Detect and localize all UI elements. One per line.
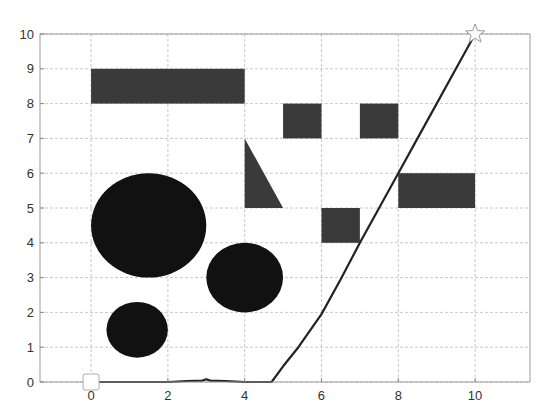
chart-background <box>0 0 552 419</box>
y-tick-label: 7 <box>27 131 34 146</box>
x-tick-label: 6 <box>318 388 325 403</box>
y-tick-label: 8 <box>27 96 34 111</box>
y-tick-label: 3 <box>27 270 34 285</box>
y-tick-label: 2 <box>27 305 34 320</box>
obstacle-circle <box>106 302 167 358</box>
y-tick-label: 0 <box>27 375 34 390</box>
obstacle-rectangle <box>398 173 475 208</box>
y-tick-label: 1 <box>27 340 34 355</box>
y-tick-label: 5 <box>27 201 34 216</box>
obstacle-circle <box>206 243 283 313</box>
path-planning-chart: 0246810 012345678910 <box>0 0 552 419</box>
start-square-icon <box>83 374 99 390</box>
y-tick-label: 4 <box>27 235 34 250</box>
obstacle-rectangle <box>360 104 398 139</box>
x-tick-label: 10 <box>468 388 482 403</box>
obstacle-rectangle <box>321 208 359 243</box>
obstacle-rectangle <box>91 69 245 104</box>
y-tick-label: 9 <box>27 61 34 76</box>
y-tick-label: 6 <box>27 166 34 181</box>
x-tick-label: 2 <box>164 388 171 403</box>
x-tick-label: 8 <box>395 388 402 403</box>
obstacle-rectangle <box>283 104 321 139</box>
y-tick-label: 10 <box>20 27 34 42</box>
x-tick-label: 4 <box>241 388 248 403</box>
obstacle-circle <box>91 173 206 277</box>
